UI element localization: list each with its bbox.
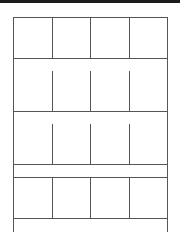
panel-4-3[interactable] <box>91 178 130 218</box>
panel-3-2[interactable] <box>53 124 92 164</box>
panel-3-1[interactable] <box>14 124 53 164</box>
panel-2-1[interactable] <box>14 71 53 111</box>
panel-1-1[interactable] <box>14 18 53 58</box>
caption-strip-3[interactable] <box>14 164 167 178</box>
panel-2-4[interactable] <box>130 71 168 111</box>
caption-strip-2[interactable] <box>14 111 167 125</box>
top-bar <box>0 0 180 3</box>
storyboard-grid <box>13 17 168 232</box>
caption-strip-1[interactable] <box>14 58 167 72</box>
panel-1-4[interactable] <box>130 18 168 58</box>
panel-4-1[interactable] <box>14 178 53 218</box>
panel-row-3 <box>14 124 167 178</box>
panel-4-4[interactable] <box>130 178 168 218</box>
panel-row-2 <box>14 71 167 125</box>
panel-1-3[interactable] <box>91 18 130 58</box>
panel-row-1 <box>14 18 167 72</box>
panel-3-4[interactable] <box>130 124 168 164</box>
panel-3-3[interactable] <box>91 124 130 164</box>
caption-strip-4[interactable] <box>14 218 167 232</box>
panel-1-2[interactable] <box>53 18 92 58</box>
panel-2-3[interactable] <box>91 71 130 111</box>
panel-4-2[interactable] <box>53 178 92 218</box>
panel-2-2[interactable] <box>53 71 92 111</box>
panel-row-4 <box>14 178 167 232</box>
